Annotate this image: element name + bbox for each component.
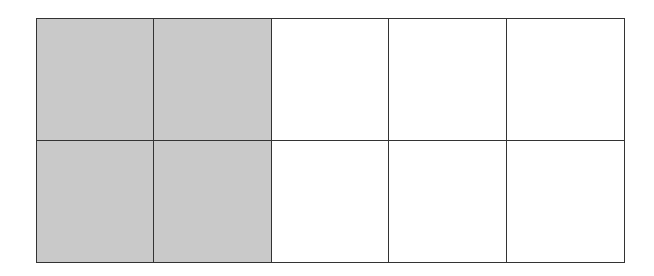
shaded-cell [37, 141, 154, 263]
unshaded-cell [507, 141, 624, 263]
unshaded-cell [389, 19, 506, 141]
unshaded-cell [272, 19, 389, 141]
unshaded-cell [507, 19, 624, 141]
unshaded-cell [272, 141, 389, 263]
shaded-cell [154, 141, 271, 263]
shaded-cell [37, 19, 154, 141]
shaded-cell [154, 19, 271, 141]
fraction-grid [36, 18, 625, 263]
unshaded-cell [389, 141, 506, 263]
